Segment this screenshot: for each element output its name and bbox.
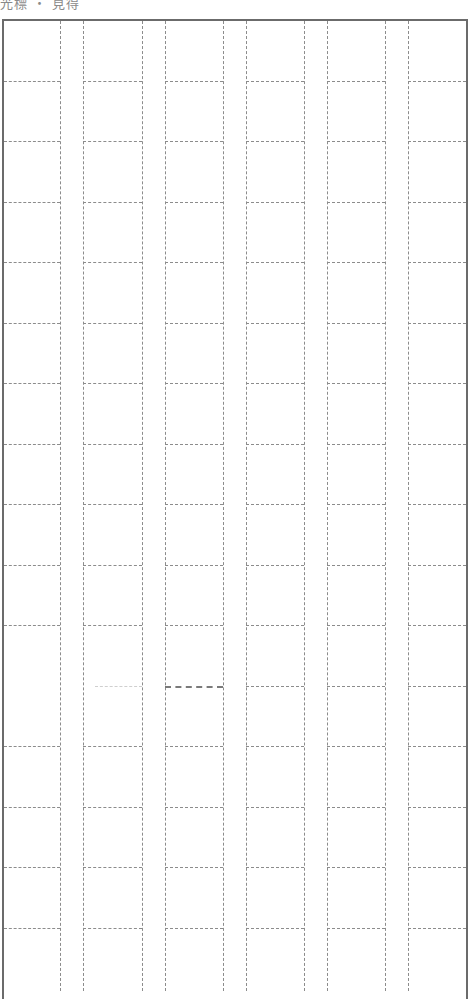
row-divider-line — [327, 444, 385, 445]
column-divider-line — [60, 21, 61, 991]
row-divider-line — [165, 625, 223, 626]
row-divider-line — [4, 262, 60, 263]
row-divider-line — [246, 141, 304, 142]
row-divider-line — [246, 323, 304, 324]
row-divider-line — [246, 565, 304, 566]
row-divider-line — [165, 323, 223, 324]
column-divider-line — [223, 21, 224, 991]
column-divider-line — [304, 21, 305, 991]
row-divider-line — [246, 807, 304, 808]
row-divider-line — [327, 807, 385, 808]
row-divider-line — [408, 81, 466, 82]
column-divider-line — [142, 21, 143, 991]
row-divider-line — [4, 867, 60, 868]
row-divider-line — [4, 565, 60, 566]
row-divider-line — [165, 928, 223, 929]
row-divider-line — [408, 565, 466, 566]
row-divider-line — [83, 202, 142, 203]
row-divider-line — [246, 867, 304, 868]
row-divider-line — [408, 323, 466, 324]
row-divider-line — [246, 746, 304, 747]
row-divider-line — [4, 383, 60, 384]
row-divider-line — [4, 202, 60, 203]
column-divider-line — [385, 21, 386, 991]
row-divider-line — [83, 383, 142, 384]
row-divider-line — [4, 504, 60, 505]
column-divider-line — [327, 21, 328, 991]
row-divider-line — [327, 323, 385, 324]
row-divider-line — [165, 141, 223, 142]
row-divider-line — [327, 686, 385, 687]
row-divider-line — [83, 504, 142, 505]
row-divider-line — [83, 928, 142, 929]
row-divider-line — [4, 444, 60, 445]
writing-grid-sheet — [2, 19, 468, 999]
row-divider-line — [4, 323, 60, 324]
row-divider-line — [246, 928, 304, 929]
row-divider-line — [327, 565, 385, 566]
row-divider-line — [4, 625, 60, 626]
column-divider-line — [246, 21, 247, 991]
row-divider-line — [165, 202, 223, 203]
row-divider-line — [4, 141, 60, 142]
row-divider-line — [4, 81, 60, 82]
row-divider-line — [408, 504, 466, 505]
row-divider-line — [327, 81, 385, 82]
row-divider-line — [83, 81, 142, 82]
column-divider-line — [165, 21, 166, 991]
row-divider-line — [83, 444, 142, 445]
row-divider-line — [246, 625, 304, 626]
row-divider-line — [327, 928, 385, 929]
row-divider-line — [4, 928, 60, 929]
row-divider-line — [165, 81, 223, 82]
row-divider-line — [408, 383, 466, 384]
row-divider-line — [327, 625, 385, 626]
row-divider-line — [408, 262, 466, 263]
row-divider-line — [408, 746, 466, 747]
row-divider-line — [327, 383, 385, 384]
row-divider-line — [408, 807, 466, 808]
row-divider-line — [83, 625, 142, 626]
row-divider-line — [4, 807, 60, 808]
page-header-label: 光標 ・ 見得 — [0, 0, 80, 12]
row-divider-line — [408, 928, 466, 929]
row-divider-line — [165, 807, 223, 808]
row-divider-line — [165, 867, 223, 868]
row-divider-line — [327, 141, 385, 142]
row-divider-line — [408, 202, 466, 203]
row-divider-line — [165, 504, 223, 505]
column-divider-line — [83, 21, 84, 991]
row-divider-line — [83, 746, 142, 747]
row-divider-line — [246, 686, 304, 687]
row-divider-line — [327, 867, 385, 868]
row-divider-line — [408, 686, 466, 687]
row-divider-line — [246, 81, 304, 82]
row-divider-line — [408, 141, 466, 142]
row-divider-line — [83, 565, 142, 566]
row-divider-line — [246, 444, 304, 445]
row-divider-line — [327, 504, 385, 505]
row-divider-line — [327, 202, 385, 203]
row-divider-line — [165, 383, 223, 384]
row-divider-line — [327, 262, 385, 263]
row-divider-line — [246, 383, 304, 384]
row-divider-line — [4, 746, 60, 747]
row-divider-line — [83, 807, 142, 808]
row-divider-line — [246, 504, 304, 505]
column-divider-line — [408, 21, 409, 991]
row-divider-line — [408, 625, 466, 626]
row-divider-line — [83, 262, 142, 263]
row-divider-line — [165, 444, 223, 445]
row-divider-line — [165, 262, 223, 263]
row-divider-line — [408, 444, 466, 445]
row-divider-line — [83, 141, 142, 142]
row-divider-line — [246, 202, 304, 203]
row-divider-line — [95, 686, 142, 687]
row-divider-line — [408, 867, 466, 868]
row-divider-line — [165, 686, 223, 688]
row-divider-line — [165, 565, 223, 566]
row-divider-line — [83, 867, 142, 868]
row-divider-line — [83, 323, 142, 324]
row-divider-line — [165, 746, 223, 747]
row-divider-line — [327, 746, 385, 747]
